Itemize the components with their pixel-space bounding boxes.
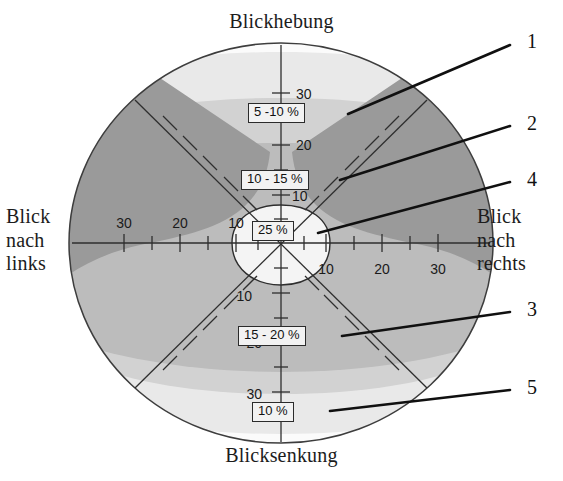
tick-left-10: 10 [228, 215, 244, 231]
diagram-canvas: 30 20 10 10 20 30 30 20 10 10 20 30 Blic… [0, 0, 563, 481]
label-blicksenkung: Blicksenkung [0, 444, 563, 468]
tick-up-30: 30 [296, 86, 312, 102]
callout-number-3: 3 [527, 298, 537, 321]
callout-number-5: 5 [527, 376, 537, 399]
callout-number-4: 4 [527, 168, 537, 191]
label-blick-nach-rechts: Blick nach rechts [477, 205, 563, 276]
tick-down-30: 30 [246, 386, 262, 402]
callout-number-1: 1 [527, 30, 537, 53]
label-blick-nach-links: Blick nach links [6, 205, 92, 276]
tick-left-20: 20 [172, 215, 188, 231]
percent-label-5-10: 5 -10 % [248, 103, 305, 123]
percent-label-10: 10 % [252, 402, 294, 422]
percent-label-10-15: 10 - 15 % [241, 170, 309, 190]
tick-up-20: 20 [296, 137, 312, 153]
tick-right-30: 30 [430, 261, 446, 277]
percent-label-15-20: 15 - 20 % [238, 326, 306, 346]
tick-up-10: 10 [292, 188, 308, 204]
tick-down-10: 10 [236, 288, 252, 304]
tick-right-10: 10 [318, 261, 334, 277]
callout-number-2: 2 [527, 112, 537, 135]
label-blickhebung: Blickhebung [0, 10, 563, 34]
tick-left-30: 30 [116, 215, 132, 231]
tick-right-20: 20 [374, 261, 390, 277]
percent-label-25: 25 % [252, 221, 294, 241]
